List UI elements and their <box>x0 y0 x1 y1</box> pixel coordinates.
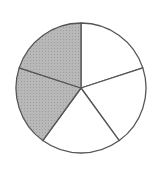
pie-slices <box>16 23 146 153</box>
fraction-pie <box>0 0 162 170</box>
